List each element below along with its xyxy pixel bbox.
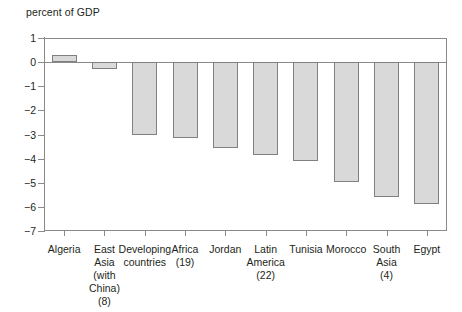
y-tick-0 bbox=[38, 38, 44, 39]
x-tick bbox=[225, 231, 226, 236]
bar bbox=[334, 62, 359, 181]
x-tick bbox=[427, 231, 428, 236]
bar bbox=[253, 62, 278, 155]
plot-right-border bbox=[446, 38, 447, 231]
chart-figure: percent of GDP 1 0 −1 −2 −3 −4 −5 −6 −7 … bbox=[0, 0, 462, 312]
y-tick-4 bbox=[38, 135, 44, 136]
y-tick-label-4: −3 bbox=[10, 130, 36, 141]
bar bbox=[213, 62, 238, 148]
bar bbox=[293, 62, 318, 161]
y-tick-6 bbox=[38, 183, 44, 184]
bar bbox=[374, 62, 399, 197]
x-tick bbox=[346, 231, 347, 236]
plot-area: 1 0 −1 −2 −3 −4 −5 −6 −7 bbox=[44, 38, 447, 231]
y-tick-label-1: 0 bbox=[10, 57, 36, 68]
x-axis-label: Egypt bbox=[401, 243, 453, 256]
y-tick-label-8: −7 bbox=[10, 226, 36, 237]
y-tick-1 bbox=[38, 62, 44, 63]
bar bbox=[92, 62, 117, 69]
y-tick-label-6: −5 bbox=[10, 178, 36, 189]
y-tick-label-0: 1 bbox=[10, 33, 36, 44]
x-tick bbox=[266, 231, 267, 236]
y-tick-label-2: −1 bbox=[10, 81, 36, 92]
y-axis-line bbox=[44, 37, 45, 232]
bar bbox=[414, 62, 439, 204]
bar bbox=[173, 62, 198, 138]
y-tick-label-5: −4 bbox=[10, 154, 36, 165]
bar bbox=[132, 62, 157, 134]
y-tick-3 bbox=[38, 110, 44, 111]
y-tick-label-3: −2 bbox=[10, 105, 36, 116]
bar bbox=[52, 55, 77, 62]
y-tick-label-7: −6 bbox=[10, 202, 36, 213]
y-tick-8 bbox=[38, 231, 44, 232]
x-tick bbox=[387, 231, 388, 236]
x-tick bbox=[104, 231, 105, 236]
y-tick-7 bbox=[38, 207, 44, 208]
x-tick bbox=[64, 231, 65, 236]
x-tick bbox=[185, 231, 186, 236]
y-tick-2 bbox=[38, 86, 44, 87]
x-tick bbox=[306, 231, 307, 236]
plot-top-border bbox=[44, 38, 447, 39]
y-tick-5 bbox=[38, 159, 44, 160]
y-axis-title: percent of GDP bbox=[26, 6, 100, 18]
x-tick bbox=[145, 231, 146, 236]
